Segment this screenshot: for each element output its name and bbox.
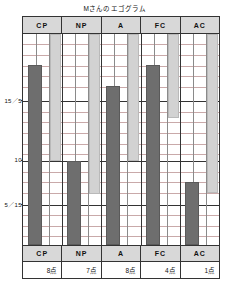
footer-cell-fc: FC — [141, 246, 180, 261]
y-tick-label-2: 5／15 — [0, 200, 22, 209]
bar-a-other — [128, 34, 139, 161]
gridline-minor — [23, 172, 219, 173]
footer-cell-cp: CP — [23, 246, 62, 261]
bar-np-self — [67, 161, 81, 245]
score-cell-fc: 4点 — [141, 262, 180, 278]
bar-ac-other — [207, 34, 218, 193]
column-separator — [141, 34, 142, 245]
y-tick-label-1: 10 — [0, 157, 22, 163]
egogram-chart: Mさんのエゴグラム 15／5 10 5／15 CP NP A FC AC — [0, 0, 230, 285]
page-title: Mさんのエゴグラム — [0, 3, 230, 13]
header-cell-np: NP — [62, 17, 101, 33]
column-separator — [180, 34, 181, 245]
header-cell-cp: CP — [23, 17, 62, 33]
bar-a-self — [106, 86, 120, 245]
score-cell-np: 7点 — [62, 262, 101, 278]
footer-row: CP NP A FC AC — [23, 245, 219, 262]
score-cell-cp: 8点 — [23, 262, 62, 278]
bar-np-other — [89, 34, 100, 194]
score-row: 8点 7点 8点 4点 1点 — [23, 262, 219, 278]
footer-cell-a: A — [102, 246, 141, 261]
footer-cell-ac: AC — [181, 246, 219, 261]
score-cell-a: 8点 — [102, 262, 141, 278]
bar-cp-self — [28, 65, 42, 245]
bar-fc-self — [146, 65, 160, 245]
plot-area — [23, 34, 219, 245]
bar-fc-other — [168, 34, 179, 118]
bar-cp-other — [50, 34, 61, 161]
header-cell-fc: FC — [141, 17, 180, 33]
gridline-major-10 — [23, 161, 219, 162]
header-row: CP NP A FC AC — [23, 17, 219, 34]
column-separator — [101, 34, 102, 245]
chart-frame: CP NP A FC AC — [22, 16, 220, 279]
column-separator — [62, 34, 63, 245]
bar-ac-self — [185, 182, 199, 245]
header-cell-ac: AC — [181, 17, 219, 33]
footer-cell-np: NP — [62, 246, 101, 261]
y-axis: 15／5 10 5／15 — [0, 16, 22, 279]
header-cell-a: A — [102, 17, 141, 33]
score-cell-ac: 1点 — [181, 262, 219, 278]
y-tick-label-0: 15／5 — [0, 96, 22, 105]
